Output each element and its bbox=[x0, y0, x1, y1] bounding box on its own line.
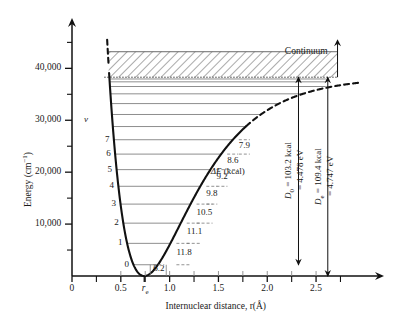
morse-potential-diagram: 10,00020,00030,00040,00000.51.01.52.02.5… bbox=[0, 0, 397, 326]
y-axis-title: Energy (cm−1) bbox=[22, 152, 34, 207]
v-column-header: v bbox=[84, 115, 88, 124]
y-tick-label: 20,000 bbox=[35, 167, 61, 177]
vibrational-level-number: 4 bbox=[109, 181, 114, 190]
delta-e-value: 9.2 bbox=[216, 172, 227, 181]
re-label: re bbox=[142, 284, 149, 296]
x-tick-label: 2.5 bbox=[310, 284, 322, 294]
vibrational-level-number: 1 bbox=[118, 238, 123, 247]
delta-e-value: 7.9 bbox=[239, 141, 250, 150]
x-tick-label: 1.5 bbox=[212, 284, 224, 294]
de-arrow-label: De = 109.4 kcal= 4.747 eV bbox=[314, 148, 335, 205]
vibrational-level-number: 7 bbox=[105, 135, 110, 144]
delta-e-value: 8.6 bbox=[227, 156, 238, 165]
delta-e-value: 6.2 bbox=[153, 264, 164, 273]
x-axis-title: Internuclear distance, r(Å) bbox=[166, 302, 267, 312]
potential-curve-dashed-right bbox=[246, 83, 360, 126]
delta-e-value: 9.8 bbox=[206, 189, 217, 198]
vibrational-level-number: 6 bbox=[106, 149, 111, 158]
continuum-label: Continuum bbox=[285, 47, 328, 57]
x-tick-label: 0 bbox=[70, 284, 75, 294]
y-tick-label: 30,000 bbox=[35, 115, 61, 125]
y-tick-label: 40,000 bbox=[35, 63, 61, 73]
y-tick-label: 10,000 bbox=[35, 219, 61, 229]
d0-arrow-label: D0 = 103.2 kcal= 4.478 eV bbox=[284, 142, 305, 199]
delta-e-value: 11.1 bbox=[187, 227, 202, 236]
x-tick-label: 2.0 bbox=[261, 284, 273, 294]
x-tick-label: 0.5 bbox=[115, 284, 127, 294]
vibrational-level-number: 3 bbox=[112, 199, 117, 208]
vibrational-level-number: 5 bbox=[108, 165, 113, 174]
vibrational-level-number: 0 bbox=[125, 260, 130, 269]
potential-curve-dashed-upper bbox=[107, 40, 108, 65]
vibrational-level-number: 2 bbox=[114, 218, 119, 227]
delta-e-value: 10.5 bbox=[197, 208, 213, 217]
delta-e-value: 11.8 bbox=[176, 248, 191, 257]
x-tick-label: 1.0 bbox=[164, 284, 176, 294]
